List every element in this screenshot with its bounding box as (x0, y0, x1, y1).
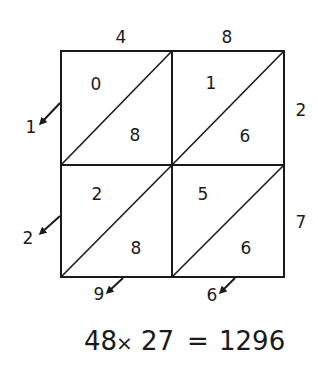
result-digit: 9 (94, 284, 105, 304)
multiplier-digit: 2 (296, 100, 307, 120)
cell-ones-digit: 6 (240, 126, 251, 146)
result-digit: 1 (26, 117, 37, 137)
equation-times-sign: × (116, 331, 133, 355)
multiplicand-digit: 4 (116, 27, 127, 47)
multiplicand-digit: 8 (222, 27, 233, 47)
equation-equals-sign: = (187, 326, 209, 356)
cell-tens-digit: 1 (206, 73, 217, 93)
equation: 48 × 27 = 1296 (84, 326, 285, 356)
equation-factor-a: 48 (84, 326, 117, 356)
cell-diagonal (61, 51, 172, 165)
cell-tens-digit: 0 (91, 74, 102, 94)
cell-diagonal (172, 51, 284, 165)
result-digit: 2 (23, 228, 34, 248)
lattice-diagram: 4 8 2 7 0 8 1 6 2 8 5 6 1 2 9 6 48 × 27 … (0, 0, 318, 366)
cell-tens-digit: 5 (198, 184, 209, 204)
cell-ones-digit: 6 (241, 238, 252, 258)
carry-arrow-icon (41, 103, 60, 123)
multiplier-digit: 7 (296, 212, 307, 232)
cell-diagonal (172, 165, 284, 277)
cell-ones-digit: 8 (130, 125, 141, 145)
equation-factor-b: 27 (141, 326, 174, 356)
cell-ones-digit: 8 (131, 238, 142, 258)
carry-arrow-icon (108, 278, 123, 292)
cell-diagonal (61, 165, 172, 277)
carry-arrow-icon (41, 216, 60, 233)
result-digit: 6 (207, 285, 218, 305)
cell-tens-digit: 2 (92, 184, 103, 204)
equation-product: 1296 (219, 326, 285, 356)
carry-arrow-icon (221, 278, 235, 292)
